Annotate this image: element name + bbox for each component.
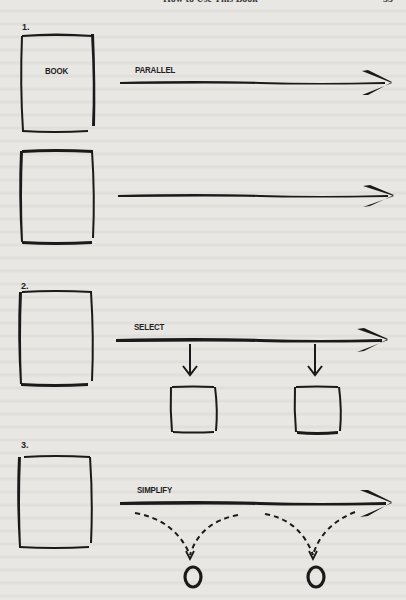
- diagram-artwork: [0, 0, 406, 600]
- simplify-source-box: [17, 455, 93, 549]
- select-arrow: [116, 328, 388, 352]
- parallel-arrow-1: [120, 70, 392, 95]
- book-box-2: [19, 149, 95, 245]
- selected-box-2: [294, 386, 342, 436]
- simplify-dashed-arrows-1: [135, 513, 238, 555]
- simplified-result-1: [185, 567, 201, 587]
- simplified-result-2: [308, 567, 324, 587]
- book-page: How to Use This Book 55 1. BOOK PARALLEL…: [0, 0, 406, 600]
- book-box-1: [20, 34, 95, 134]
- parallel-arrow-2: [118, 185, 394, 207]
- selected-box-1: [170, 386, 218, 434]
- select-down-arrow-1: [183, 344, 197, 375]
- simplify-dashed-arrows-2: [265, 512, 355, 555]
- select-source-box: [18, 290, 94, 387]
- simplify-arrowheads: [186, 551, 317, 559]
- select-down-arrow-2: [308, 344, 322, 375]
